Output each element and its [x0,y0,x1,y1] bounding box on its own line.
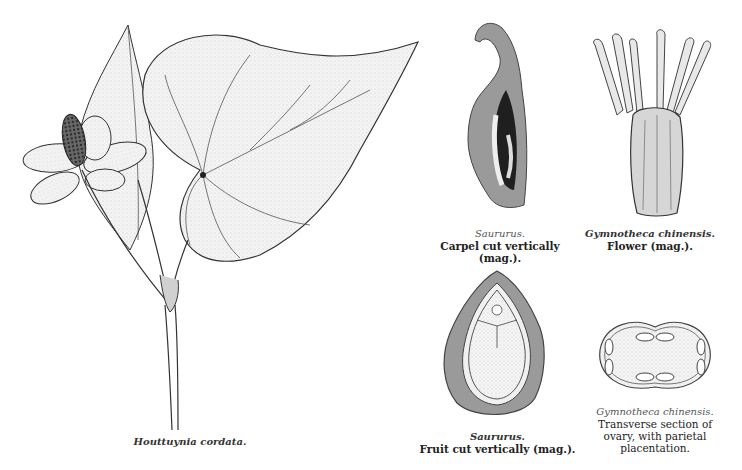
figure-description-line-3: placentation. [580,442,730,454]
caption-houttuynia: Houttuynia cordata. [110,436,270,448]
saururus-carpel-illustration [440,10,560,220]
figure-houttuynia-cordata: Houttuynia cordata. [10,20,430,440]
species-name: Saururus. [410,431,585,443]
caption-gymnotheca-flower: Gymnotheca chinensis. Flower (mag.). [570,228,730,252]
species-name: Houttuynia cordata. [110,436,270,448]
caption-saururus-carpel: Saururus. Carpel cut vertically (mag.). [420,228,580,264]
species-name: Gymnotheca chinensis. [580,406,730,418]
figure-gymnotheca-flower: Gymnotheca chinensis. Flower (mag.). [585,25,715,225]
caption-gymnotheca-ovary: Gymnotheca chinensis. Transverse section… [580,406,730,454]
houttuynia-plant-illustration [10,20,430,440]
species-name: Gymnotheca chinensis. [570,228,730,240]
figure-gymnotheca-ovary: Gymnotheca chinensis. Transverse section… [595,315,715,400]
figure-description: Flower (mag.). [570,240,730,252]
figure-description-line-1: Transverse section of [580,418,730,430]
gymnotheca-ovary-illustration [595,315,715,395]
figure-description: Carpel cut vertically (mag.). [420,240,580,264]
caption-saururus-fruit: Saururus. Fruit cut vertically (mag.). [410,431,585,455]
gymnotheca-flower-illustration [585,25,715,220]
figure-description-line-2: ovary, with parietal [580,430,730,442]
species-name: Saururus. [420,228,580,240]
saururus-fruit-illustration [435,268,560,423]
figure-saururus-carpel: Saururus. Carpel cut vertically (mag.). [440,10,560,225]
figure-saururus-fruit: Saururus. Fruit cut vertically (mag.). [435,268,560,428]
figure-description: Fruit cut vertically (mag.). [410,443,585,455]
